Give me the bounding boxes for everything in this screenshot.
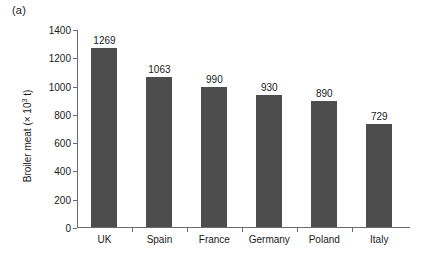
y-axis-tick-mark — [73, 228, 77, 229]
plot-area: 0200400600800100012001400 12691063990930… — [77, 30, 410, 228]
bar-value-label: 990 — [184, 74, 244, 85]
y-axis-tick-label: 1200 — [49, 53, 71, 64]
y-axis-title: Broiler meat (× 103 t) — [22, 37, 36, 235]
bar[interactable] — [201, 87, 227, 227]
y-axis-tick-mark — [73, 115, 77, 116]
x-axis-tick-mark — [187, 228, 188, 232]
y-axis-tick-mark — [73, 200, 77, 201]
y-axis-tick-label: 600 — [54, 138, 71, 149]
y-axis-tick-label: 200 — [54, 194, 71, 205]
x-axis-line — [77, 227, 410, 228]
panel-label: (a) — [12, 4, 26, 16]
bar[interactable] — [256, 95, 282, 227]
bar-value-label: 890 — [294, 88, 354, 99]
y-axis-tick-label: 0 — [65, 223, 71, 234]
y-axis-tick-mark — [73, 143, 77, 144]
x-axis-tick-mark — [242, 228, 243, 232]
y-axis-tick-mark — [73, 87, 77, 88]
x-axis-tick-mark — [132, 228, 133, 232]
bar-value-label: 930 — [239, 82, 299, 93]
y-axis-tick-mark — [73, 58, 77, 59]
x-axis-tick-mark — [297, 228, 298, 232]
y-axis-title-prefix: Broiler meat (× 10 — [22, 103, 33, 183]
bar[interactable] — [366, 124, 392, 227]
y-axis-tick-label: 1000 — [49, 81, 71, 92]
y-axis-tick-mark — [73, 171, 77, 172]
bar-value-label: 1063 — [129, 64, 189, 75]
y-axis-tick-label: 800 — [54, 109, 71, 120]
x-axis-tick-mark — [352, 228, 353, 232]
bar[interactable] — [146, 77, 172, 227]
y-axis-title-exponent: 3 — [21, 99, 28, 103]
y-axis-tick-mark — [73, 30, 77, 31]
bar[interactable] — [311, 101, 337, 227]
bar[interactable] — [91, 48, 117, 227]
bar-value-label: 729 — [349, 111, 409, 122]
bar-value-label: 1269 — [74, 35, 134, 46]
y-axis-title-suffix: t) — [22, 90, 33, 99]
y-axis-tick-label: 1400 — [49, 25, 71, 36]
y-axis-line — [77, 30, 78, 228]
y-axis-tick-label: 400 — [54, 166, 71, 177]
x-axis-category-label: Italy — [339, 234, 419, 245]
